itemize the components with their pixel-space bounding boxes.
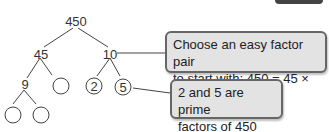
prime-5: 5 bbox=[118, 81, 128, 94]
factor-45: 45 bbox=[32, 48, 50, 61]
factor-10: 10 bbox=[101, 48, 119, 61]
empty-node-circle bbox=[5, 107, 21, 123]
callout-factor-pair: Choose an easy factor pair to start with… bbox=[165, 31, 327, 73]
empty-node-circle bbox=[33, 107, 49, 123]
callout-line: factors of 450 bbox=[178, 118, 275, 132]
callout-line: Choose an easy factor pair bbox=[173, 36, 319, 70]
root-number: 450 bbox=[63, 15, 89, 28]
factor-9: 9 bbox=[20, 78, 30, 91]
callout-line: 2 and 5 are prime bbox=[178, 84, 275, 118]
prime-2: 2 bbox=[89, 80, 99, 93]
empty-node-circle bbox=[53, 78, 69, 94]
callout-prime-factors: 2 and 5 are prime factors of 450 bbox=[170, 79, 283, 119]
